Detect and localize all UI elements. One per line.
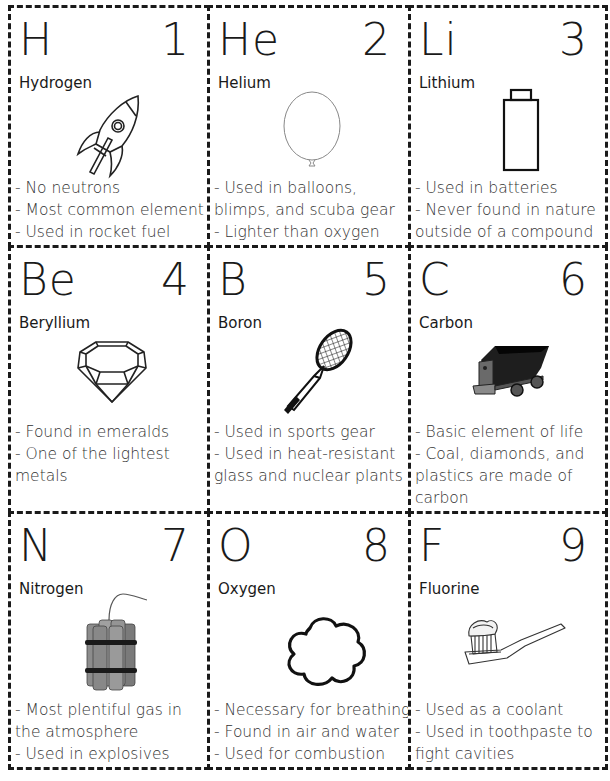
fact: - Used in explosives [15,743,205,765]
element-card-grid: H 1 Hydrogen - No neutrons - Most common… [8,5,608,770]
element-name: Beryllium [19,316,90,331]
element-symbol: N [19,524,53,568]
fact: - Most common element [15,199,205,221]
fact: - One of the lightest [15,443,205,465]
element-name: Fluorine [419,582,480,597]
element-name: Carbon [419,316,473,331]
fact-list: - Used in batteries - Never found in nat… [415,177,603,243]
element-symbol: H [19,18,53,62]
element-symbol: F [419,524,445,568]
fact: - Used as a coolant [415,699,603,721]
atomic-number: 6 [559,258,587,302]
fact: - Lighter than oxygen [214,221,406,243]
fact-list: - Necessary for breathing - Found in air… [214,699,406,765]
fact-list: - Used in balloons, blimps, and scuba ge… [214,177,406,243]
fact-list: - Found in emeralds - One of the lightes… [15,421,205,487]
fact-list: - Used as a coolant - Used in toothpaste… [415,699,603,765]
element-card-oxygen: O 8 Oxygen - Necessary for breathing - F… [207,511,411,770]
fact: - Used in toothpaste to [415,721,603,743]
gem-icon [74,338,150,406]
coal-cart-icon [471,338,555,402]
atomic-number: 9 [559,524,587,568]
element-card-fluorine: F 9 Fluorine - Used as a coolant - Used … [408,511,608,770]
element-card-carbon: C 6 Carbon - Basic element of life - Coa… [408,245,608,514]
fact: plastics are made of [415,465,603,487]
fact-list: - Used in sports gear - Used in heat-res… [214,421,406,487]
fact: blimps, and scuba gear [214,199,406,221]
fact: - Used in sports gear [214,421,406,443]
atomic-number: 7 [161,524,189,568]
element-name: Boron [218,316,262,331]
fact: - Used in balloons, [214,177,406,199]
element-card-beryllium: Be 4 Beryllium - Found in emeralds - One… [8,245,210,514]
element-name: Lithium [419,76,475,91]
fact: - Found in emeralds [15,421,205,443]
fact: - No neutrons [15,177,205,199]
fact-list: - Basic element of life - Coal, diamonds… [415,421,603,509]
fact: glass and nuclear plants [214,465,406,487]
element-card-boron: B 5 Boron - Used in sports gear - Used i… [207,245,411,514]
element-card-helium: He 2 Helium - Used in balloons, blimps, … [207,5,411,248]
element-symbol: He [218,18,280,62]
element-symbol: B [218,258,248,302]
tennis-racket-icon [280,328,360,418]
atomic-number: 3 [559,18,587,62]
element-symbol: O [218,524,254,568]
fact: - Used in heat-resistant [214,443,406,465]
element-card-hydrogen: H 1 Hydrogen - No neutrons - Most common… [8,5,210,248]
fact: fight cavities [415,743,603,765]
fact: - Most plentiful gas in [15,699,205,721]
balloon-icon [280,90,344,174]
fact: - Necessary for breathing [214,699,406,721]
fact: the atmosphere [15,721,205,743]
fact: carbon [415,487,603,509]
fact-list: - Most plentiful gas in the atmosphere -… [15,699,205,765]
element-symbol: Be [19,258,77,302]
element-card-lithium: Li 3 Lithium - Used in batteries - Never… [408,5,608,248]
fact: - Used in rocket fuel [15,221,205,243]
atomic-number: 8 [362,524,390,568]
fact: - Used in batteries [415,177,603,199]
fact: metals [15,465,205,487]
fact: - Coal, diamonds, and [415,443,603,465]
atomic-number: 2 [362,18,390,62]
element-symbol: Li [419,18,458,62]
cloud-icon [280,614,370,690]
dynamite-icon [81,584,151,694]
fact: - Found in air and water [214,721,406,743]
atomic-number: 1 [161,18,189,62]
element-card-nitrogen: N 7 Nitrogen - Most plentiful gas in the… [8,511,210,770]
fact: - Basic element of life [415,421,603,443]
element-name: Oxygen [218,582,276,597]
element-symbol: C [419,258,451,302]
toothbrush-icon [461,614,571,670]
fact: - Never found in nature [415,199,603,221]
fact: outside of a compound [415,221,603,243]
fact: - Used for combustion [214,743,406,765]
battery-icon [501,86,541,176]
rocket-icon [66,88,156,188]
fact-list: - No neutrons - Most common element - Us… [15,177,205,243]
element-name: Helium [218,76,271,91]
element-name: Nitrogen [19,582,84,597]
atomic-number: 5 [362,258,390,302]
atomic-number: 4 [161,258,189,302]
